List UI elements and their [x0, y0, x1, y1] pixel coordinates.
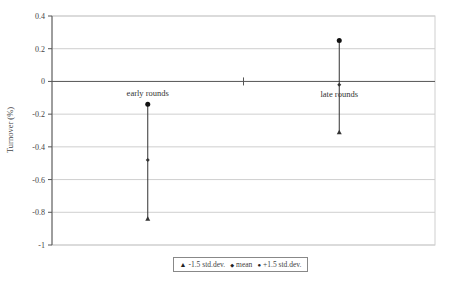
chart-canvas: 0.40.20-0.2-0.4-0.6-0.8-1 Turnover (%) e…	[0, 0, 454, 281]
diamond-icon: ◆	[230, 262, 234, 268]
legend-item-plus: ● +1.5 std.dev.	[257, 260, 301, 269]
triangle-icon: ▲	[180, 261, 187, 269]
legend-item-mean: ◆ mean	[230, 260, 252, 269]
y-axis-label: Turnover (%)	[5, 107, 15, 153]
svg-text:late rounds: late rounds	[320, 89, 358, 99]
svg-text:-0.2: -0.2	[32, 110, 45, 119]
legend: ▲ -1.5 std.dev. ◆ mean ● +1.5 std.dev.	[173, 257, 308, 272]
svg-text:0.2: 0.2	[35, 45, 45, 54]
svg-text:0: 0	[41, 77, 45, 86]
svg-text:-1: -1	[38, 241, 45, 250]
svg-text:-0.6: -0.6	[32, 176, 45, 185]
gridlines	[52, 16, 435, 245]
legend-item-minus: ▲ -1.5 std.dev.	[180, 260, 226, 269]
circle-icon: ●	[257, 262, 261, 268]
svg-text:-0.8: -0.8	[32, 208, 45, 217]
svg-text:-0.4: -0.4	[32, 143, 45, 152]
y-axis-ticks: 0.40.20-0.2-0.4-0.6-0.8-1	[32, 12, 52, 250]
svg-text:early rounds: early rounds	[127, 88, 169, 98]
data-series: early roundslate rounds	[127, 38, 358, 221]
svg-text:0.4: 0.4	[35, 12, 45, 21]
